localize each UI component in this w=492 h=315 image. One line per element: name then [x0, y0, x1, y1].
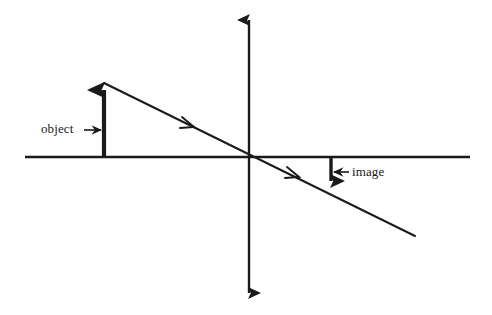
optics-ray-diagram: object image: [0, 0, 492, 315]
object-label: object: [41, 122, 73, 135]
principal-ray: [104, 83, 415, 236]
image-label: image: [352, 165, 384, 178]
ray-diagram-canvas: [0, 0, 492, 315]
